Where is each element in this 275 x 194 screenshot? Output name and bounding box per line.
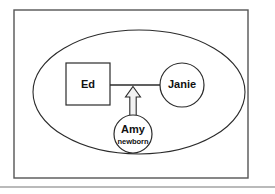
node-ed[interactable]: Ed bbox=[66, 63, 110, 105]
amy-note-label: newborn bbox=[117, 137, 149, 146]
amy-label: Amy bbox=[121, 123, 146, 135]
node-janie[interactable]: Janie bbox=[160, 63, 204, 107]
ed-label: Ed bbox=[81, 78, 95, 90]
diagram-canvas: Ed Janie Amy newborn bbox=[0, 0, 275, 194]
janie-label: Janie bbox=[168, 78, 196, 90]
node-amy[interactable]: Amy newborn bbox=[114, 115, 152, 153]
family-diagram: Ed Janie Amy newborn bbox=[0, 0, 275, 194]
